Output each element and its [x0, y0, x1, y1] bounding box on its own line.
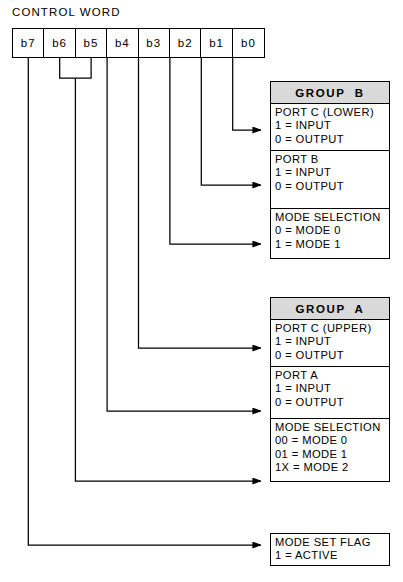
bit-cell-b4: b4	[107, 29, 138, 57]
lead-b1	[201, 58, 261, 185]
mode-set-flag-box: MODE SET FLAG 1 = ACTIVE	[270, 533, 390, 566]
bit-cell-b0: b0	[233, 29, 264, 57]
group-b-port-b-line-2: 0 = OUTPUT	[275, 180, 389, 193]
group-b-port-c-lower-line-1: 1 = INPUT	[275, 119, 389, 132]
group-b-header: GROUP B	[271, 82, 389, 104]
group-a-mode-selection-line-2: 01 = MODE 1	[275, 448, 389, 461]
mode-set-flag-line-1: 1 = ACTIVE	[275, 549, 389, 562]
control-word-title: CONTROL WORD	[12, 6, 121, 18]
group-a-port-c-upper-title: PORT C (UPPER)	[275, 322, 389, 335]
group-b-port-c-lower-line-2: 0 = OUTPUT	[275, 133, 389, 146]
lead-b3	[139, 58, 262, 348]
lead-b6-b5	[75, 78, 261, 481]
group-a-port-c-upper-section: PORT C (UPPER) 1 = INPUT 0 = OUTPUT	[271, 320, 389, 367]
group-a-port-c-upper-line-2: 0 = OUTPUT	[275, 349, 389, 362]
group-a-port-a-line-1: 1 = INPUT	[275, 382, 389, 395]
group-b-box: GROUP B PORT C (LOWER) 1 = INPUT 0 = OUT…	[270, 81, 390, 259]
lead-b4	[107, 58, 261, 411]
bit-cell-b2: b2	[170, 29, 201, 57]
group-a-mode-selection-line-3: 1X = MODE 2	[275, 461, 389, 474]
bit-cell-b3: b3	[139, 29, 170, 57]
mode-set-flag-title: MODE SET FLAG	[275, 536, 389, 549]
group-b-mode-selection-line-2: 1 = MODE 1	[275, 238, 389, 251]
group-b-port-b-title: PORT B	[275, 153, 389, 166]
group-b-mode-selection-section: MODE SELECTION 0 = MODE 0 1 = MODE 1	[271, 209, 389, 258]
bracket-b6-b5	[60, 58, 91, 78]
group-b-port-b-section: PORT B 1 = INPUT 0 = OUTPUT	[271, 151, 389, 209]
group-a-mode-selection-title: MODE SELECTION	[275, 421, 389, 434]
group-a-mode-selection-line-1: 00 = MODE 0	[275, 434, 389, 447]
bit-cell-b5: b5	[76, 29, 107, 57]
group-b-mode-selection-title: MODE SELECTION	[275, 211, 389, 224]
lead-b7	[28, 58, 261, 545]
group-a-port-c-upper-line-1: 1 = INPUT	[275, 335, 389, 348]
bit-cell-b7: b7	[13, 29, 44, 57]
group-a-box: GROUP A PORT C (UPPER) 1 = INPUT 0 = OUT…	[270, 297, 390, 482]
bit-cell-b1: b1	[201, 29, 232, 57]
group-b-port-c-lower-section: PORT C (LOWER) 1 = INPUT 0 = OUTPUT	[271, 104, 389, 151]
group-a-port-a-line-2: 0 = OUTPUT	[275, 396, 389, 409]
lead-b2	[170, 58, 261, 244]
bit-cell-b6: b6	[44, 29, 75, 57]
group-a-port-a-section: PORT A 1 = INPUT 0 = OUTPUT	[271, 367, 389, 419]
control-word-bit-assignment-diagram: CONTROL WORD b7 b6 b5 b4 b3 b2 b1 b0 GRO…	[0, 0, 403, 582]
group-a-mode-selection-section: MODE SELECTION 00 = MODE 0 01 = MODE 1 1…	[271, 419, 389, 481]
group-b-port-b-line-1: 1 = INPUT	[275, 166, 389, 179]
group-a-port-a-title: PORT A	[275, 369, 389, 382]
group-a-header: GROUP A	[271, 298, 389, 320]
control-word-bit-row: b7 b6 b5 b4 b3 b2 b1 b0	[12, 28, 265, 58]
group-b-port-c-lower-title: PORT C (LOWER)	[275, 106, 389, 119]
group-b-mode-selection-line-1: 0 = MODE 0	[275, 224, 389, 237]
lead-b0	[233, 58, 261, 130]
